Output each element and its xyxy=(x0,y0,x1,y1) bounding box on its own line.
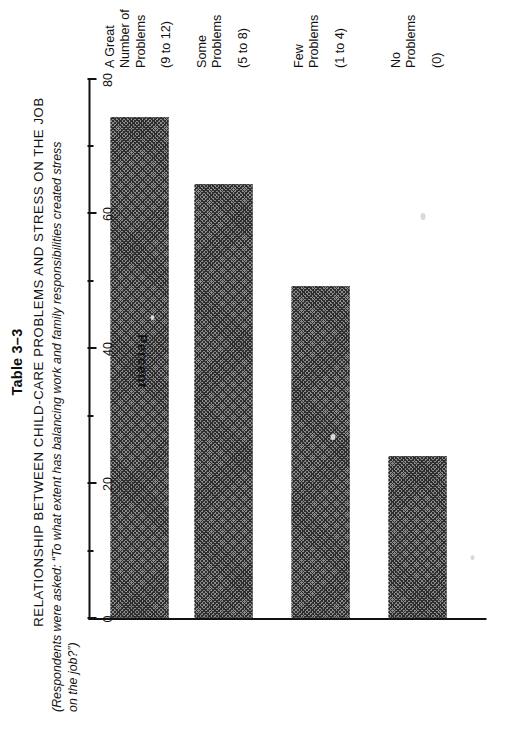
category-range: (9 to 12) xyxy=(158,9,173,68)
table-number: Table 3–3 xyxy=(8,12,24,712)
category-name-line-1: A Great xyxy=(102,25,116,68)
axis-tick-40 xyxy=(87,347,96,349)
axis-tick-label-0: 0 xyxy=(100,616,114,623)
bar-some-problems xyxy=(194,184,252,618)
category-range: (5 to 8) xyxy=(235,15,250,68)
category-label-a-great-number-of-problems: A Great Number of Problems (9 to 12) xyxy=(102,9,173,68)
table-subtitle-line-1: (Respondents were asked: “To what extent… xyxy=(48,12,64,712)
category-name-line-1: Few xyxy=(291,44,305,68)
category-range: (1 to 4) xyxy=(332,15,347,68)
category-label-some-problems: Some Problems (5 to 8) xyxy=(194,15,250,68)
title-block: Table 3–3 RELATIONSHIP BETWEEN CHILD-CAR… xyxy=(8,12,81,712)
percent-axis-line xyxy=(88,618,486,620)
category-name-line-1: Some xyxy=(194,35,208,68)
category-name-line-3: Problems xyxy=(133,15,147,68)
category-range: (0) xyxy=(429,15,444,68)
category-name-line-2: Number of xyxy=(117,9,131,68)
plot-frame-top-line xyxy=(88,78,90,620)
category-label-no-problems: No Problems (0) xyxy=(388,15,444,68)
category-name-line-1: No xyxy=(388,52,402,68)
axis-tick-label-20: 20 xyxy=(100,477,114,491)
axis-tick-minor-70 xyxy=(87,145,93,147)
axis-tick-label-60: 60 xyxy=(100,207,114,221)
axis-tick-20 xyxy=(87,482,96,484)
percent-axis-title: Percent xyxy=(134,334,149,388)
axis-tick-80 xyxy=(87,78,96,80)
figure-canvas: Table 3–3 RELATIONSHIP BETWEEN CHILD-CAR… xyxy=(0,0,517,740)
axis-tick-60 xyxy=(87,212,96,214)
table-subtitle-line-2: on the job?”) xyxy=(64,12,80,712)
bar-no-problems xyxy=(388,456,446,618)
category-name-line-2: Problems xyxy=(403,15,417,68)
axis-tick-label-40: 40 xyxy=(100,342,114,356)
axis-tick-0 xyxy=(87,617,96,619)
bar-few-problems xyxy=(291,286,349,618)
category-name-line-2: Problems xyxy=(306,15,320,68)
category-name-line-2: Problems xyxy=(209,15,223,68)
axis-tick-minor-30 xyxy=(87,415,93,417)
chart-plot-area: 0 20 40 60 80 Percent No Problems (0) Fe… xyxy=(88,78,486,620)
page-title: RELATIONSHIP BETWEEN CHILD-CARE PROBLEMS… xyxy=(30,12,45,712)
axis-tick-minor-50 xyxy=(87,280,93,282)
axis-tick-minor-10 xyxy=(87,550,93,552)
axis-tick-label-80: 80 xyxy=(100,73,114,87)
category-label-few-problems: Few Problems (1 to 4) xyxy=(291,15,347,68)
